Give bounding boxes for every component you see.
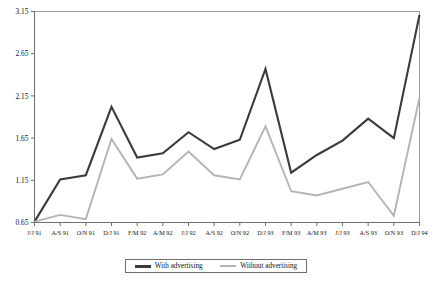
chart-axes bbox=[35, 11, 421, 223]
x-axis-tick-label: A/S 93 bbox=[359, 229, 376, 236]
x-axis-tick-label: O/N 91 bbox=[77, 229, 95, 236]
x-axis-tick-label: A/S 92 bbox=[205, 229, 222, 236]
y-axis-ticks bbox=[31, 12, 35, 223]
chart-legend: With advertising Without advertising bbox=[125, 259, 307, 273]
caption-strip bbox=[0, 274, 433, 282]
x-axis-ticks bbox=[35, 223, 420, 227]
legend-label-without-advertising: Without advertising bbox=[240, 262, 297, 270]
legend-item-with-advertising: With advertising bbox=[135, 262, 203, 270]
y-axis-tick-label: 1.65 bbox=[16, 134, 29, 143]
line-chart-figure: 0.651.151.652.152.653.15 J/J 91A/S 91O/N… bbox=[0, 0, 433, 282]
series-line-with-advertising bbox=[35, 15, 420, 222]
chart-series-lines bbox=[35, 15, 420, 222]
x-axis-tick-label: A/M 93 bbox=[307, 229, 326, 236]
x-axis-tick-label: A/M 92 bbox=[153, 229, 172, 236]
legend-swatch-with-advertising bbox=[135, 265, 151, 268]
x-axis-tick-label: D/J 91 bbox=[103, 229, 119, 236]
x-axis-tick-label: J/J 93 bbox=[335, 229, 349, 236]
y-axis-tick-label: 2.15 bbox=[16, 92, 29, 101]
x-axis-tick-label: A/S 91 bbox=[51, 229, 68, 236]
x-axis-tick-label: O/N 93 bbox=[385, 229, 403, 236]
y-axis-tick-label: 3.15 bbox=[16, 7, 29, 16]
legend-item-without-advertising: Without advertising bbox=[220, 262, 297, 270]
x-axis-tick-label: D/J 93 bbox=[257, 229, 273, 236]
y-axis-tick-label: 0.65 bbox=[16, 218, 29, 227]
x-axis-tick-label: F/M 93 bbox=[282, 229, 300, 236]
y-axis-tick-labels: 0.651.151.652.152.653.15 bbox=[16, 7, 29, 227]
x-axis-tick-labels: J/J 91A/S 91O/N 91D/J 91F/M 92A/M 92J/J … bbox=[27, 229, 427, 236]
legend-label-with-advertising: With advertising bbox=[155, 262, 203, 270]
legend-swatch-without-advertising bbox=[220, 265, 236, 268]
x-axis-tick-label: O/N 92 bbox=[231, 229, 249, 236]
x-axis-tick-label: J/J 92 bbox=[181, 229, 195, 236]
chart-plot-area: 0.651.151.652.152.653.15 J/J 91A/S 91O/N… bbox=[0, 0, 433, 282]
y-axis-tick-label: 2.65 bbox=[16, 49, 29, 58]
x-axis-tick-label: D/J 94 bbox=[411, 229, 427, 236]
x-axis-tick-label: J/J 91 bbox=[27, 229, 41, 236]
y-axis-tick-label: 1.15 bbox=[16, 176, 29, 185]
x-axis-tick-label: F/M 92 bbox=[128, 229, 146, 236]
